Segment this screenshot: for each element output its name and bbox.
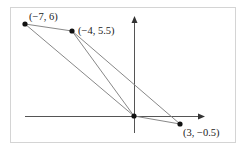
axes xyxy=(25,20,201,133)
point-label-C: (3, −0.5) xyxy=(183,127,220,139)
segment-B-O xyxy=(72,31,134,116)
segment-O-C xyxy=(134,116,180,124)
point-A xyxy=(22,21,27,26)
point-label-B: (−4, 5.5) xyxy=(78,25,115,37)
point-O xyxy=(131,113,136,118)
x-axis-arrow-icon xyxy=(198,114,205,120)
segments xyxy=(25,24,180,124)
point-B xyxy=(69,28,74,33)
diagram-canvas: (−7, 6)(−4, 5.5)(3, −0.5) xyxy=(0,0,248,154)
points xyxy=(22,21,182,126)
point-labels: (−7, 6)(−4, 5.5)(3, −0.5) xyxy=(29,11,220,139)
y-axis-arrow-icon xyxy=(132,16,138,23)
point-C xyxy=(177,121,182,126)
point-label-A: (−7, 6) xyxy=(29,11,58,23)
